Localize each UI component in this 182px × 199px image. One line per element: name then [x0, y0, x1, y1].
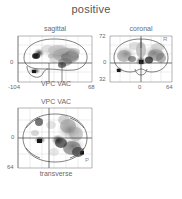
coronal-x-mid-label: 0	[138, 84, 141, 90]
figure-title: positive	[0, 3, 182, 15]
coronal-projection	[110, 36, 172, 82]
transverse-projection	[18, 108, 92, 168]
coronal-y-bottom-label: 32	[99, 76, 106, 82]
coronal-y-mid-label: 0	[103, 59, 106, 65]
panel-coronal: coronal 72 0 32 0 64 R	[110, 36, 172, 82]
sagittal-reference-label: VPC VAC	[32, 80, 80, 87]
coronal-y-top-label: 72	[99, 33, 106, 39]
spm-glass-brain-figure: positive	[0, 0, 182, 199]
transverse-y-bottom-label: 64	[7, 164, 14, 170]
sagittal-panel-label: sagittal	[15, 25, 95, 32]
sagittal-x-right-label: 68	[88, 84, 95, 90]
panel-sagittal: sagittal 0 -104 68 VPC VAC	[18, 36, 92, 82]
panel-transverse: VPC VAC 0 64 transverse P	[18, 108, 92, 168]
transverse-panel-label: transverse	[23, 170, 89, 177]
transverse-y-top-label: 0	[11, 134, 14, 140]
sagittal-x-left-label: -104	[8, 84, 20, 90]
coronal-x-right-label: 64	[166, 84, 173, 90]
transverse-orientation-marker: P	[85, 157, 89, 163]
transverse-reference-label: VPC VAC	[32, 98, 80, 105]
sagittal-y-mid-label: 0	[10, 59, 13, 65]
coronal-orientation-marker: R	[163, 36, 167, 42]
coronal-panel-label: coronal	[106, 25, 176, 32]
sagittal-projection	[18, 36, 92, 82]
